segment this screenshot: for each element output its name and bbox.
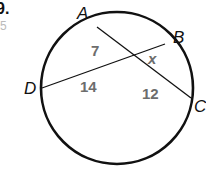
point-a-label: A [76,4,88,23]
point-d-label: D [24,79,36,98]
segment-ae-label: 7 [91,42,99,59]
segment-ec-label: 12 [142,85,159,102]
segment-eb-label: x [147,50,157,67]
problem-side-fragment: 5 [0,19,7,33]
circle [41,12,193,164]
chord-db [42,44,165,88]
intersecting-chords-diagram: 9. 5 A B C D 7 x 14 12 [0,0,206,170]
problem-number-fragment: 9. [0,0,9,17]
point-b-label: B [173,28,184,47]
segment-de-label: 14 [80,78,97,95]
point-c-label: C [194,97,206,116]
